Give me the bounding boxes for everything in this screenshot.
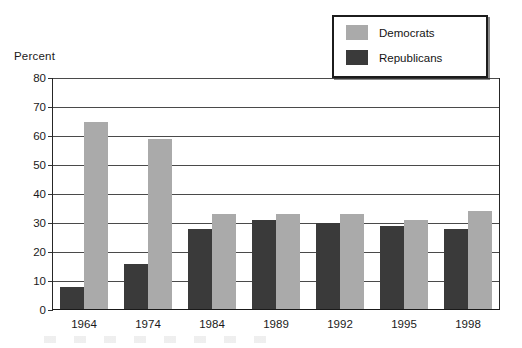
legend: Democrats Republicans [332, 15, 488, 78]
y-tick-label-10: 10 [12, 275, 46, 287]
y-axis-title: Percent [14, 50, 55, 62]
plot-area [52, 78, 500, 310]
x-tick-label-1998: 1998 [455, 318, 481, 330]
y-tick-mark-0 [48, 310, 53, 311]
legend-label-democrats: Democrats [379, 27, 435, 39]
y-tick-label-20: 20 [12, 246, 46, 258]
x-tick-label-1984: 1984 [199, 318, 225, 330]
y-tick-label-0: 0 [12, 304, 46, 316]
y-tick-label-30: 30 [12, 217, 46, 229]
y-tick-label-80: 80 [12, 72, 46, 84]
y-tick-label-50: 50 [12, 159, 46, 171]
legend-item-democrats: Democrats [346, 25, 435, 40]
x-tick-label-1974: 1974 [135, 318, 161, 330]
bar-chart: Percent 01020304050607080 19641974198419… [0, 0, 522, 348]
legend-item-republicans: Republicans [346, 50, 442, 65]
x-tick-label-1964: 1964 [71, 318, 97, 330]
x-tick-label-1995: 1995 [391, 318, 417, 330]
legend-swatch-republicans [346, 50, 368, 65]
y-tick-label-40: 40 [12, 188, 46, 200]
y-tick-label-60: 60 [12, 130, 46, 142]
x-tick-label-1992: 1992 [327, 318, 353, 330]
x-tick-label-1989: 1989 [263, 318, 289, 330]
y-tick-label-70: 70 [12, 101, 46, 113]
scan-artifact [44, 336, 274, 343]
legend-label-republicans: Republicans [379, 52, 442, 64]
legend-swatch-democrats [346, 25, 368, 40]
plot-frame [52, 78, 500, 310]
